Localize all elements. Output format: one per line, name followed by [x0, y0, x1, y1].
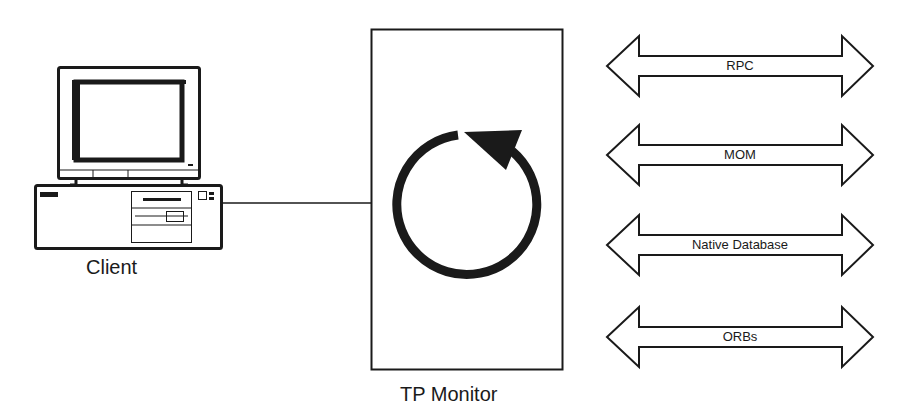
connection-label-rpc: RPC	[726, 58, 753, 73]
desktop-computer-icon	[36, 68, 222, 249]
client-label: Client	[86, 256, 137, 279]
connection-label-orbs: ORBs	[723, 329, 758, 344]
circular-arrow-icon	[397, 130, 537, 274]
tp-monitor-label: TP Monitor	[400, 383, 497, 406]
connection-label-mom: MOM	[724, 147, 756, 162]
connection-label-native-database: Native Database	[692, 237, 788, 252]
diagram-canvas	[0, 0, 906, 415]
